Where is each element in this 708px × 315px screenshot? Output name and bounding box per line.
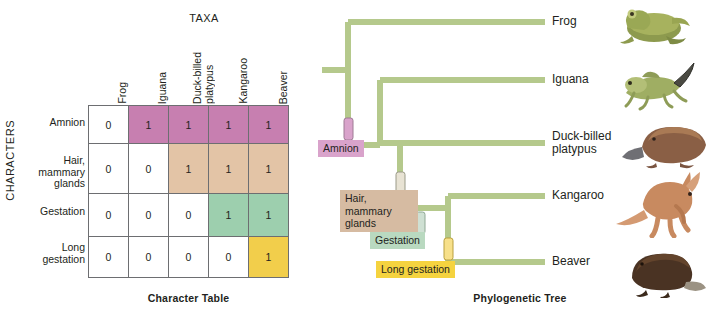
cell-long-gestation-kangaroo: 0 (209, 237, 249, 277)
cell-gestation-frog: 0 (89, 194, 129, 236)
cell-long-gestation-beaver: 1 (249, 237, 288, 277)
trait-marker-amnion (344, 118, 353, 140)
cell-long-gestation-frog: 0 (89, 237, 129, 277)
frog-illustration (606, 2, 696, 48)
trait-label-long-gestation: Long gestation (376, 261, 455, 278)
tip-label-iguana: Iguana (552, 73, 589, 86)
table-row: 0 0 0 0 1 (89, 237, 288, 277)
cell-hair-frog: 0 (89, 144, 129, 193)
beaver-illustration (616, 240, 708, 298)
table-row-labels: Amnion Hair, mammary glands Gestation Lo… (0, 105, 85, 278)
character-matrix: 0 1 1 1 1 0 0 1 1 1 0 0 0 1 1 0 0 0 0 1 (88, 105, 289, 278)
table-row: 0 0 1 1 1 (89, 144, 288, 194)
cell-gestation-beaver: 1 (249, 194, 288, 236)
character-table-caption: Character Table (88, 292, 289, 304)
tip-label-frog: Frog (552, 15, 577, 28)
taxa-axis-label: TAXA (144, 12, 264, 24)
cell-amnion-beaver: 1 (249, 106, 288, 143)
tip-label-duck-billed-platypus: Duck-billed platypus (552, 130, 611, 156)
iguana-illustration (608, 57, 700, 113)
table-row: 0 0 0 1 1 (89, 194, 288, 237)
row-label-amnion: Amnion (3, 117, 85, 129)
cell-gestation-platypus: 0 (169, 194, 209, 236)
character-table-panel: TAXA CHARACTERS Frog Iguana Duck-billed … (0, 0, 330, 315)
cell-gestation-kangaroo: 1 (209, 194, 249, 236)
phylogenetic-tree-caption: Phylogenetic Tree (430, 292, 610, 304)
trait-label-hair-mammary-glands: Hair, mammary glands (340, 190, 418, 232)
trait-marker-long-gestation (444, 238, 453, 260)
trait-label-gestation: Gestation (370, 232, 425, 249)
cell-amnion-kangaroo: 1 (209, 106, 249, 143)
cell-hair-beaver: 1 (249, 144, 288, 193)
cell-hair-platypus: 1 (169, 144, 209, 193)
column-header-beaver: Beaver (249, 34, 319, 104)
tip-label-beaver: Beaver (552, 255, 590, 268)
platypus-illustration (620, 117, 708, 169)
table-column-headers: Frog Iguana Duck-billed platypus Kangaro… (88, 34, 289, 104)
row-label-hair-mammary-glands: Hair, mammary glands (3, 155, 85, 190)
row-label-gestation: Gestation (3, 206, 85, 218)
trait-label-amnion: Amnion (318, 140, 364, 157)
kangaroo-illustration (614, 166, 706, 238)
tip-label-kangaroo: Kangaroo (552, 189, 604, 202)
cell-amnion-iguana: 1 (129, 106, 169, 143)
cell-gestation-iguana: 0 (129, 194, 169, 236)
phylogenetic-tree-panel: Amnion Hair, mammary glands Gestation Lo… (320, 0, 708, 315)
cell-long-gestation-platypus: 0 (169, 237, 209, 277)
cell-amnion-platypus: 1 (169, 106, 209, 143)
cell-hair-kangaroo: 1 (209, 144, 249, 193)
table-row: 0 1 1 1 1 (89, 106, 288, 144)
cell-hair-iguana: 0 (129, 144, 169, 193)
row-label-long-gestation: Long gestation (3, 242, 85, 265)
cell-long-gestation-iguana: 0 (129, 237, 169, 277)
cell-amnion-frog: 0 (89, 106, 129, 143)
